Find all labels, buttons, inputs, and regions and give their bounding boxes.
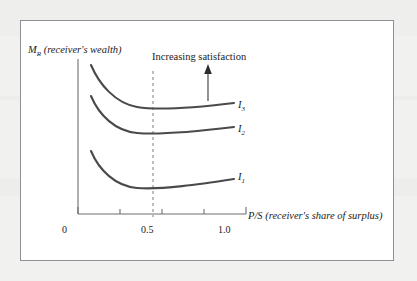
x-tick-label-0: 0	[62, 225, 67, 235]
curve-label-i3-subscript: 3	[242, 105, 246, 113]
increasing-satisfaction-arrow	[204, 64, 212, 101]
curve-label-i2-subscript: 2	[242, 129, 246, 137]
curve-label-i1: I1	[238, 172, 245, 185]
y-axis-label-text: (receiver's wealth)	[41, 44, 122, 55]
curve-i3	[91, 65, 234, 109]
y-axis-label-symbol: M	[28, 44, 37, 55]
curve-label-i2: I2	[238, 124, 245, 137]
y-axis-label: MR (receiver's wealth)	[28, 45, 122, 58]
increasing-satisfaction-label: Increasing satisfaction	[152, 52, 246, 63]
x-axis-label: P/S (receiver's share of surplus)	[248, 211, 382, 222]
curve-label-i1-subscript: 1	[242, 177, 246, 185]
curve-label-i3: I3	[238, 100, 245, 113]
x-tick-label-10: 1.0	[218, 225, 231, 235]
curve-i2	[91, 96, 234, 134]
curve-i1	[91, 151, 234, 188]
x-tick-label-05: 0.5	[141, 225, 154, 235]
x-axis-ticks	[78, 207, 246, 214]
